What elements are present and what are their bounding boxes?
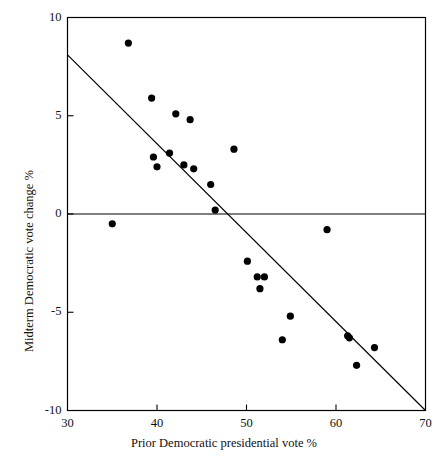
y-axis-label-container: Midterm Democratic vote change % <box>0 0 30 420</box>
data-point <box>256 285 263 292</box>
data-point <box>172 110 179 117</box>
regression-line <box>68 55 426 411</box>
data-point <box>190 165 197 172</box>
x-tick-label: 70 <box>406 416 446 431</box>
data-point <box>353 362 360 369</box>
data-point <box>166 149 173 156</box>
data-point <box>244 258 251 265</box>
data-point <box>230 146 237 153</box>
scatter-plot-figure: Midterm Democratic vote change % Prior D… <box>0 0 448 464</box>
data-point <box>148 94 155 101</box>
x-axis-label: Prior Democratic presidential vote % <box>0 436 448 451</box>
y-tick-label: -5 <box>28 304 62 319</box>
data-point <box>346 334 353 341</box>
y-tick-label: 0 <box>28 206 62 221</box>
y-axis-label: Midterm Democratic vote change % <box>22 170 37 352</box>
data-point <box>323 226 330 233</box>
data-point <box>109 220 116 227</box>
data-point <box>125 39 132 46</box>
x-tick-label: 50 <box>227 416 267 431</box>
data-point <box>254 273 261 280</box>
data-point <box>180 161 187 168</box>
data-point <box>261 273 268 280</box>
data-point <box>279 336 286 343</box>
data-point <box>187 116 194 123</box>
data-point <box>212 206 219 213</box>
y-tick-label: 5 <box>28 108 62 123</box>
plot-canvas <box>0 0 448 464</box>
data-point <box>371 344 378 351</box>
x-tick-label: 30 <box>48 416 88 431</box>
x-tick-label: 60 <box>316 416 356 431</box>
data-point <box>150 153 157 160</box>
axis-ticks <box>68 116 337 411</box>
data-point <box>287 313 294 320</box>
x-tick-label: 40 <box>137 416 177 431</box>
data-point <box>153 163 160 170</box>
y-tick-label: 10 <box>28 10 62 25</box>
data-points <box>109 39 378 368</box>
data-point <box>207 181 214 188</box>
